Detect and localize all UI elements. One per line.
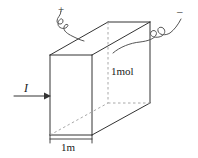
- positive-sign-label: +: [58, 4, 64, 15]
- prism-front-face: [50, 55, 92, 135]
- width-label: 1m: [61, 142, 75, 153]
- top-right-receding-edge: [92, 22, 150, 55]
- bottom-right-receding-edge: [92, 103, 150, 135]
- positive-squiggle-path: [57, 11, 84, 41]
- prism-hidden-edges: [50, 22, 150, 135]
- current-label: I: [24, 82, 28, 94]
- prism-top-face: [50, 22, 150, 55]
- physics-diagram-figure: 1mol I 1m + –: [0, 0, 198, 158]
- volume-label: 1mol: [111, 66, 134, 77]
- diagram-canvas: [0, 0, 198, 158]
- negative-sign-label: –: [177, 6, 183, 17]
- hidden-bottom-left-receding-edge: [50, 103, 108, 135]
- rectangular-prism-icon: [50, 22, 150, 135]
- right-arrow-icon: [14, 92, 51, 99]
- positive-charge-squiggle-icon: [57, 11, 84, 41]
